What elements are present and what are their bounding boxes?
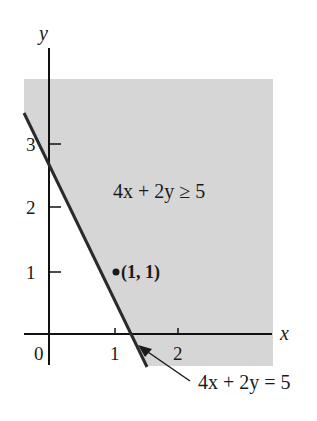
region-label: 4x + 2y ≥ 5 [113,180,205,203]
y-tick-label-1: 1 [26,262,36,283]
y-tick-label-2: 2 [26,197,36,218]
shaded-region [24,79,273,366]
x-tick-label-1: 1 [110,343,120,364]
x-axis-label: x [279,322,289,344]
inequality-graph: y x 0 3 2 1 1 2 4x + 2y ≥ 5 (1, 1) 4x + … [0,0,317,421]
y-tick-label-3: 3 [26,134,36,155]
y-axis-label: y [37,22,48,45]
boundary-label: 4x + 2y = 5 [198,371,291,394]
x-tick-label-2: 2 [173,343,183,364]
test-point [113,269,120,276]
origin-label: 0 [34,343,44,364]
test-point-label: (1, 1) [121,262,160,283]
